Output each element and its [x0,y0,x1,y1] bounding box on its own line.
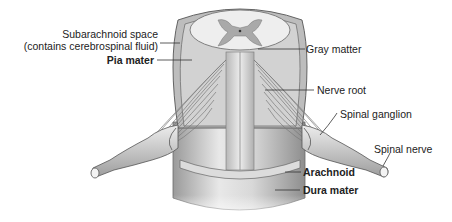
label-spinal-nerve: Spinal nerve [374,143,432,155]
cord-cross-section [190,10,290,50]
label-nerve-root: Nerve root [317,84,366,96]
label-spinal-ganglion: Spinal ganglion [340,108,412,120]
left-spinal-nerve [91,125,178,178]
label-subarachnoid-line1: Subarachnoid space [62,28,158,40]
label-subarachnoid-line2: (contains cerebrospinal fluid) [24,40,158,52]
label-arachnoid: Arachnoid [303,166,355,178]
label-pia-mater: Pia mater [60,54,154,66]
spinal-cord-column [226,52,254,170]
label-gray-matter: Gray matter [306,43,361,55]
label-dura-mater: Dura mater [303,184,358,196]
label-subarachnoid-space: Subarachnoid space (contains cerebrospin… [10,28,158,52]
